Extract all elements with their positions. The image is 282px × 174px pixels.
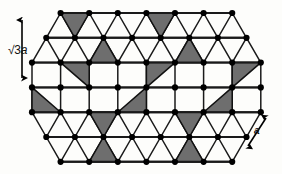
- shaded-triangle: [175, 38, 204, 63]
- shaded-triangle: [146, 63, 175, 88]
- lattice-node: [258, 84, 264, 90]
- shaded-triangle: [32, 87, 61, 112]
- lattice-node: [172, 109, 178, 115]
- bond-diagonal: [232, 38, 246, 63]
- lattice-node: [201, 10, 207, 16]
- shaded-triangle: [89, 38, 118, 63]
- lattice-node: [43, 134, 49, 140]
- shaded-triangle: [204, 87, 233, 112]
- lattice-node: [243, 134, 249, 140]
- bond-diagonal: [232, 112, 246, 137]
- lattice-node: [143, 84, 149, 90]
- bond-diagonal: [146, 38, 160, 63]
- bond-diagonal: [161, 137, 175, 162]
- bond-diagonal: [204, 137, 218, 162]
- bond-diagonal: [189, 13, 203, 38]
- lattice-node: [100, 134, 106, 140]
- shaded-triangle: [89, 112, 118, 137]
- bond-diagonal: [75, 112, 89, 137]
- shaded-triangle: [175, 137, 204, 162]
- lattice-node: [43, 35, 49, 41]
- lattice-node: [143, 109, 149, 115]
- lattice-node: [258, 60, 264, 66]
- bond-diagonal: [118, 112, 132, 137]
- lattice-diagram: [0, 0, 282, 174]
- bond-diagonal: [118, 38, 132, 63]
- lattice-node: [86, 84, 92, 90]
- lattice-node: [115, 109, 121, 115]
- bond-diagonal: [204, 38, 218, 63]
- lattice-node: [201, 60, 207, 66]
- bond-diagonal: [132, 38, 146, 63]
- lattice-node: [29, 60, 35, 66]
- lattice-node: [72, 134, 78, 140]
- lattice-node: [100, 35, 106, 41]
- lattice-node: [201, 109, 207, 115]
- lattice-node: [229, 84, 235, 90]
- bond-diagonal: [118, 13, 132, 38]
- bond-diagonal: [218, 13, 232, 38]
- lattice-node: [201, 84, 207, 90]
- bond-diagonal: [75, 38, 89, 63]
- lattice-node: [215, 35, 221, 41]
- sqrt3a-prefix: √3: [8, 43, 21, 57]
- bond-diagonal: [175, 13, 189, 38]
- lattice-node: [172, 60, 178, 66]
- lattice-node: [158, 35, 164, 41]
- bond-diagonal: [218, 137, 232, 162]
- lattice-node: [258, 109, 264, 115]
- lattice-node: [143, 60, 149, 66]
- shaded-triangle: [61, 13, 90, 38]
- bond-diagonal: [204, 112, 218, 137]
- bond-diagonal: [118, 137, 132, 162]
- shaded-triangle: [61, 63, 90, 88]
- lattice-node: [201, 159, 207, 165]
- bond-diagonal: [61, 38, 75, 63]
- bond-diagonal: [218, 38, 232, 63]
- bond-diagonal: [132, 13, 146, 38]
- bond-diagonal: [161, 112, 175, 137]
- lattice-node: [229, 109, 235, 115]
- lattice-node: [172, 10, 178, 16]
- lattice-node: [115, 60, 121, 66]
- shaded-triangle: [232, 63, 261, 88]
- bond-diagonal: [46, 13, 60, 38]
- lattice-node: [172, 84, 178, 90]
- shaded-triangle: [146, 13, 175, 38]
- lattice-node: [215, 134, 221, 140]
- lattice-node: [243, 35, 249, 41]
- annotation-layer: [22, 20, 266, 146]
- lattice-node: [172, 159, 178, 165]
- bond-diagonal: [61, 112, 75, 137]
- lattice-node: [86, 109, 92, 115]
- lattice-node: [58, 10, 64, 16]
- lattice-node: [72, 35, 78, 41]
- lattice-node: [58, 84, 64, 90]
- figure-root: √3a a: [0, 0, 282, 174]
- lattice-node: [58, 60, 64, 66]
- sqrt3a-italic-a: a: [21, 43, 27, 57]
- a-label: a: [254, 126, 260, 136]
- lattice-node: [143, 159, 149, 165]
- bond-diagonal: [146, 137, 160, 162]
- lattice-node: [29, 84, 35, 90]
- lattice-node: [229, 159, 235, 165]
- lattice-node: [86, 60, 92, 66]
- shaded-triangle: [175, 112, 204, 137]
- bond-diagonal: [132, 112, 146, 137]
- lattice-node: [229, 10, 235, 16]
- bond-diagonal: [232, 13, 246, 38]
- bond-diagonal: [32, 112, 46, 137]
- bond-diagonal: [75, 137, 89, 162]
- lattice-node: [229, 60, 235, 66]
- bond-diagonal: [204, 13, 218, 38]
- bond-diagonal: [218, 112, 232, 137]
- bond-diagonal: [232, 137, 246, 162]
- lattice-node: [115, 10, 121, 16]
- bond-diagonal: [146, 112, 160, 137]
- sqrt3a-label: √3a: [8, 44, 27, 56]
- bond-diagonal: [46, 137, 60, 162]
- lattice-node: [29, 109, 35, 115]
- lattice-node: [143, 10, 149, 16]
- lattice-node: [115, 84, 121, 90]
